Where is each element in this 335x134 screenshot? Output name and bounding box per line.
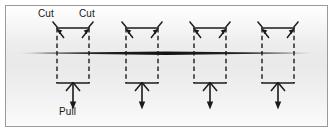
cut-tick-right <box>158 22 163 28</box>
label-pull: Pull <box>59 107 76 117</box>
diagram-panel: Cut Cut Pull <box>5 5 328 127</box>
corner-arrow-right <box>287 29 294 38</box>
label-cut-right: Cut <box>79 9 95 19</box>
cut-tick-right <box>226 22 231 28</box>
cut-tick-left <box>53 22 58 28</box>
pull-arrow <box>203 83 217 110</box>
cut-pull-unit-4 <box>258 22 299 110</box>
corner-arrow-right <box>219 29 226 38</box>
corner-arrow-right <box>151 29 158 38</box>
cut-tick-right <box>294 22 299 28</box>
corner-arrow-left <box>194 29 201 38</box>
cut-pull-unit-2 <box>122 22 163 110</box>
corner-arrow-left <box>57 29 64 38</box>
pull-arrow <box>271 83 285 110</box>
corner-arrow-left <box>126 29 133 38</box>
cut-tick-left <box>258 22 263 28</box>
cut-pull-unit-3 <box>190 22 231 110</box>
cut-tick-right <box>89 22 94 28</box>
corner-arrow-left <box>262 29 269 38</box>
diagram-stage: Cut Cut Pull <box>6 6 327 126</box>
diagram-vector-layer <box>6 6 327 126</box>
cut-tick-left <box>122 22 127 28</box>
cut-pull-unit-1 <box>53 22 94 110</box>
cut-tick-left <box>190 22 195 28</box>
corner-arrow-right <box>82 29 89 38</box>
diagram-root: Cut Cut Pull <box>0 0 335 134</box>
horizontal-sheet-line <box>16 52 316 55</box>
label-cut-left: Cut <box>38 9 54 19</box>
pull-arrow <box>135 83 149 110</box>
